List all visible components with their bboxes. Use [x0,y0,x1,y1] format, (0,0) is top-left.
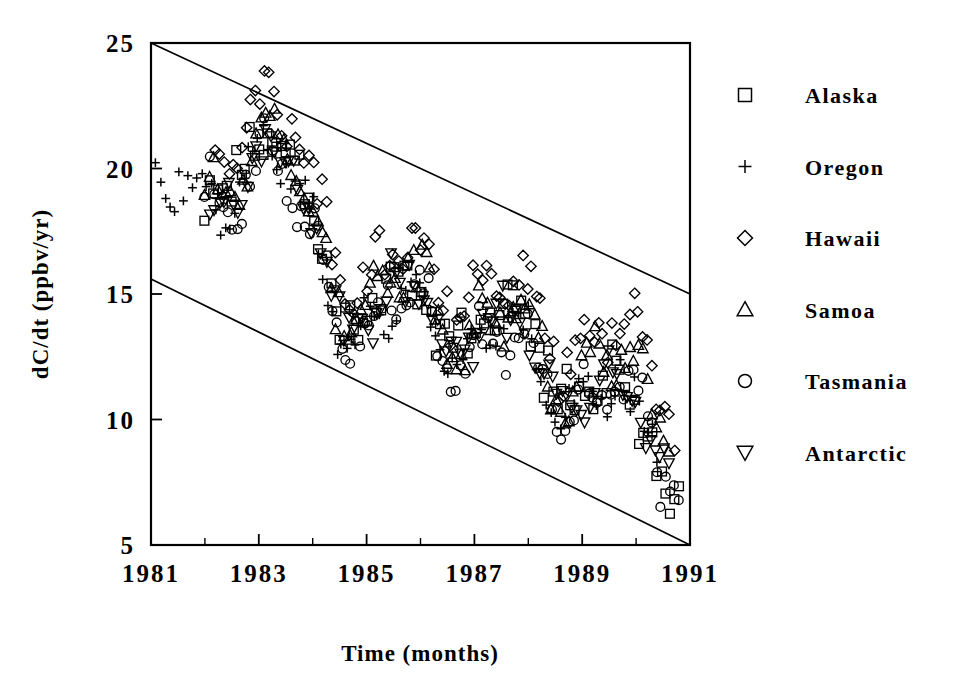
legend-label: Oregon [805,155,884,180]
y-tick-label: 5 [121,532,136,559]
x-tick-label: 1987 [445,560,503,587]
y-axis-title: dC/dt (ppbv/yr) [28,209,53,379]
legend-label: Antarctic [805,441,907,466]
legend-label: Tasmania [805,369,908,394]
x-tick-label: 1981 [122,560,180,587]
chart-svg: 198119831985198719891991 510152025 Time … [0,0,960,686]
chart-figure: 198119831985198719891991 510152025 Time … [0,0,960,686]
y-tick-label: 20 [106,156,135,183]
x-tick-label: 1991 [661,560,719,587]
y-tick-label: 25 [106,30,135,57]
y-tick-label: 10 [106,407,135,434]
legend-label: Alaska [805,83,879,108]
x-tick-label: 1989 [553,560,611,587]
legend-label: Hawaii [805,226,881,251]
y-tick-label: 15 [106,281,135,308]
x-axis-title: Time (months) [341,641,499,666]
legend-label: Samoa [805,298,876,323]
x-tick-label: 1983 [230,560,288,587]
x-tick-label: 1985 [338,560,396,587]
